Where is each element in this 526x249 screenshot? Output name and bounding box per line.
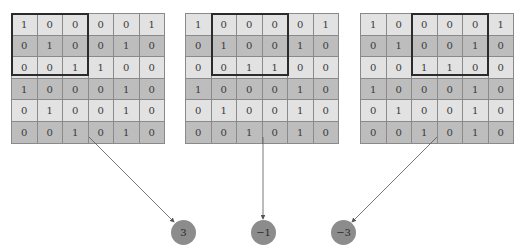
matrix-cell: 0 xyxy=(412,35,438,57)
matrix-cell: 0 xyxy=(88,78,114,100)
matrix-cell: 0 xyxy=(463,14,489,36)
matrix-cell: 0 xyxy=(88,35,114,57)
matrix-cell: 0 xyxy=(88,100,114,122)
matrix-cell: 0 xyxy=(361,57,387,79)
matrix-cell: 0 xyxy=(139,35,165,57)
matrix-cell: 0 xyxy=(288,14,314,36)
matrix-cell: 1 xyxy=(463,121,489,143)
matrix-cell: 1 xyxy=(211,35,237,57)
matrix-cell: 1 xyxy=(313,14,339,36)
matrix-cell: 0 xyxy=(237,78,263,100)
matrix-cell: 0 xyxy=(463,57,489,79)
matrix-cell: 0 xyxy=(262,121,288,143)
matrix-cell: 1 xyxy=(488,14,514,36)
matrix-row: 001010 xyxy=(186,121,339,143)
matrix-row: 010010 xyxy=(12,35,165,57)
matrix-cell: 0 xyxy=(139,121,165,143)
matrix-cell: 0 xyxy=(412,14,438,36)
matrix-cell: 1 xyxy=(288,78,314,100)
matrix-cell: 1 xyxy=(114,100,140,122)
matrix-row: 001010 xyxy=(12,121,165,143)
matrix-cell: 0 xyxy=(386,78,412,100)
matrix-cell: 0 xyxy=(37,57,63,79)
matrix-cell: 0 xyxy=(63,100,89,122)
input-matrix-panel-3: 100001010010001100100010010010001010 xyxy=(360,13,514,144)
matrix-cell: 0 xyxy=(211,14,237,36)
matrix-row: 010010 xyxy=(361,35,514,57)
matrix-cell: 0 xyxy=(237,14,263,36)
matrix-cell: 0 xyxy=(139,78,165,100)
matrix-cell: 0 xyxy=(88,14,114,36)
matrix-cell: 1 xyxy=(114,78,140,100)
matrix-cell: 0 xyxy=(139,57,165,79)
matrix-cell: 0 xyxy=(488,78,514,100)
input-matrix-panel-1: 100001010010001100100010010010001010 xyxy=(11,13,165,144)
matrix-cell: 0 xyxy=(186,35,212,57)
matrix-row: 100010 xyxy=(361,78,514,100)
matrix-cell: 1 xyxy=(186,14,212,36)
matrix-cell: 0 xyxy=(488,57,514,79)
matrix-cell: 0 xyxy=(262,35,288,57)
matrix-cell: 1 xyxy=(386,100,412,122)
matrix-cell: 0 xyxy=(211,121,237,143)
matrix-cell: 0 xyxy=(63,35,89,57)
matrix-cell: 1 xyxy=(463,35,489,57)
matrix-row: 001100 xyxy=(186,57,339,79)
matrix-cell: 0 xyxy=(211,78,237,100)
matrix-cell: 1 xyxy=(63,57,89,79)
matrix-cell: 0 xyxy=(437,35,463,57)
matrix-cell: 0 xyxy=(288,57,314,79)
matrix-cell: 0 xyxy=(488,100,514,122)
result-node-panel-1: 3 xyxy=(171,220,196,245)
matrix-cell: 1 xyxy=(361,78,387,100)
matrix-cell: 0 xyxy=(386,14,412,36)
result-value: −3 xyxy=(336,227,351,238)
matrix-cell: 0 xyxy=(313,35,339,57)
matrix-cell: 0 xyxy=(437,121,463,143)
matrix-cell: 0 xyxy=(37,121,63,143)
matrix-cell: 0 xyxy=(114,14,140,36)
matrix-row: 100001 xyxy=(186,14,339,36)
matrix-cell: 0 xyxy=(437,14,463,36)
matrix-cell: 0 xyxy=(211,57,237,79)
matrix-cell: 1 xyxy=(63,121,89,143)
arrow-panel-3 xyxy=(352,137,437,222)
matrix-cell: 0 xyxy=(114,57,140,79)
matrix-cell: 0 xyxy=(37,78,63,100)
matrix-row: 001010 xyxy=(361,121,514,143)
matrix-cell: 1 xyxy=(114,121,140,143)
matrix-cell: 1 xyxy=(463,78,489,100)
matrix-cell: 0 xyxy=(12,35,38,57)
matrix-row: 100010 xyxy=(186,78,339,100)
matrix-cell: 0 xyxy=(361,100,387,122)
matrix-cell: 0 xyxy=(313,78,339,100)
result-node-panel-3: −3 xyxy=(331,220,356,245)
matrix-cell: 1 xyxy=(114,35,140,57)
matrix-row: 100001 xyxy=(12,14,165,36)
matrix-row: 010010 xyxy=(361,100,514,122)
input-matrix-panel-2: 100001010010001100100010010010001010 xyxy=(185,13,339,144)
result-value: −1 xyxy=(256,227,271,238)
matrix-cell: 1 xyxy=(386,35,412,57)
matrix-cell: 0 xyxy=(437,78,463,100)
matrix-row: 001100 xyxy=(12,57,165,79)
matrix-row: 100001 xyxy=(361,14,514,36)
matrix-cell: 0 xyxy=(361,35,387,57)
matrix-cell: 0 xyxy=(12,57,38,79)
matrix-cell: 0 xyxy=(12,100,38,122)
matrix-cell: 0 xyxy=(488,35,514,57)
matrix-cell: 1 xyxy=(437,57,463,79)
matrix-cell: 0 xyxy=(412,100,438,122)
result-node-panel-2: −1 xyxy=(251,220,276,245)
matrix-cell: 0 xyxy=(37,14,63,36)
matrix-cell: 1 xyxy=(237,57,263,79)
matrix-cell: 1 xyxy=(186,78,212,100)
matrix-cell: 0 xyxy=(63,14,89,36)
matrix-cell: 0 xyxy=(437,100,463,122)
matrix-cell: 0 xyxy=(361,121,387,143)
matrix-row: 010010 xyxy=(12,100,165,122)
matrix-cell: 1 xyxy=(288,35,314,57)
matrix-cell: 0 xyxy=(237,35,263,57)
matrix-cell: 1 xyxy=(288,100,314,122)
matrix-cell: 0 xyxy=(262,14,288,36)
